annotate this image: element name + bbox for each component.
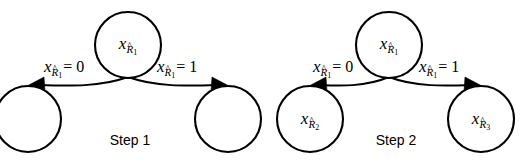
step-2-node-root-label: x^R1: [380, 35, 398, 57]
step-1-group: [0, 12, 261, 152]
step-1-edge-right-label: x^R1= 1: [157, 58, 197, 80]
binary-split-figure: x^R1 x^R1= 0 x^R1= 1 Step 1 x^R1 x^R2 x^…: [0, 0, 522, 164]
step-2-caption: Step 2: [376, 132, 416, 148]
step-2-edge-right-label: x^R1= 1: [419, 58, 459, 80]
step-1-node-child-right: [195, 86, 261, 152]
step-2-child-right-hat: ^: [480, 116, 485, 126]
step-1-edge-left-var: x: [44, 57, 52, 76]
step-2-edge-right-eq: = 1: [437, 58, 459, 75]
step-2-node-child-left-label: x^R2: [301, 110, 319, 132]
step-2-edge-right-hat: ^: [427, 64, 432, 74]
step-1-root-var: x: [119, 34, 127, 53]
step-1-root-hat: ^: [127, 41, 132, 51]
step-2-child-left-hat: ^: [309, 116, 314, 126]
step-2-edge-left-label: x^R1= 0: [313, 58, 353, 80]
step-2-node-child-right-label: x^R3: [472, 110, 490, 132]
step-2-edge-right-var: x: [419, 57, 427, 76]
step-1-node-child-left: [0, 86, 61, 152]
step-1-edge-left-hat: ^: [52, 64, 57, 74]
step-2-root-var: x: [380, 34, 388, 53]
step-1-edge-right-hat: ^: [165, 64, 170, 74]
step-2-edge-left-eq: = 0: [331, 58, 353, 75]
step-2-edge-left-var: x: [313, 57, 321, 76]
step-2-child-left-var: x: [301, 109, 309, 128]
step-2-root-subsub: 1: [394, 48, 398, 57]
step-2-child-left-subsub: 2: [315, 123, 319, 132]
step-2-root-hat: ^: [388, 41, 393, 51]
step-2-child-right-var: x: [472, 109, 480, 128]
diagram-canvas: [0, 0, 522, 164]
step-2-edge-left-hat: ^: [321, 64, 326, 74]
step-1-edge-right-var: x: [157, 57, 165, 76]
step-1-caption: Step 1: [110, 132, 150, 148]
step-1-edge-right-eq: = 1: [175, 58, 197, 75]
step-2-child-right-subsub: 3: [486, 123, 490, 132]
step-1-node-root-label: x^R1: [119, 35, 137, 57]
step-1-edge-left-eq: = 0: [62, 58, 84, 75]
step-1-root-subsub: 1: [133, 48, 137, 57]
step-1-edge-left-label: x^R1= 0: [44, 58, 84, 80]
